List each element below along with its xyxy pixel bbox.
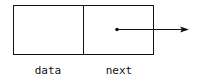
data-field-label: data: [13, 64, 83, 77]
next-field-label: next: [84, 64, 154, 77]
